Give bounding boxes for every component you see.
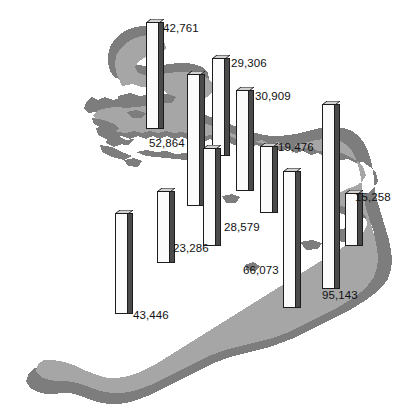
bar-front-face	[146, 22, 159, 129]
bar-front-face	[283, 171, 296, 308]
bar-value-label: 52,864	[149, 138, 185, 150]
bars-layer: 42,761 29,306 52,864 30,909	[0, 0, 410, 412]
bar-value-label: 29,306	[231, 58, 267, 70]
bar-column[interactable]	[260, 143, 278, 213]
bar-side-face	[296, 171, 301, 308]
bar-column[interactable]	[236, 87, 254, 191]
bar-front-face	[203, 148, 216, 246]
bar-front-face	[260, 146, 273, 213]
bar-value-label: 95,143	[322, 290, 358, 302]
bar-value-label: 43,446	[133, 310, 169, 322]
bar-front-face	[187, 74, 200, 206]
bar-value-label: 30,909	[255, 91, 291, 103]
bar-value-label: 28,579	[224, 222, 260, 234]
bar-side-face	[128, 213, 133, 314]
map-bar-chart: 42,761 29,306 52,864 30,909	[0, 0, 410, 412]
bar-side-face	[249, 90, 254, 191]
bar-front-face	[115, 213, 128, 314]
bar-side-face	[225, 58, 230, 156]
bar-column[interactable]	[146, 19, 164, 129]
bar-side-face	[159, 22, 164, 129]
bar-column[interactable]	[115, 210, 133, 314]
bar-side-face	[273, 146, 278, 213]
bar-front-face	[322, 104, 335, 289]
bar-side-face	[335, 104, 340, 289]
bar-value-label: 42,761	[163, 23, 199, 35]
bar-side-face	[216, 148, 221, 246]
bar-column[interactable]	[322, 101, 340, 289]
bar-column[interactable]	[203, 145, 221, 246]
bar-value-label: 23,286	[173, 243, 209, 255]
bar-column[interactable]	[283, 168, 301, 308]
bar-front-face	[212, 58, 225, 156]
bar-value-label: 19,476	[278, 142, 314, 154]
bar-value-label: 15,258	[355, 192, 391, 204]
bar-column[interactable]	[212, 55, 230, 156]
bar-front-face	[236, 90, 249, 191]
bar-value-label: 66,073	[243, 265, 279, 277]
bar-front-face	[157, 191, 170, 263]
